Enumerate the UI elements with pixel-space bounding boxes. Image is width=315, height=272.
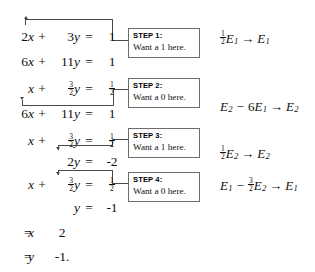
equation-row-2: 6x + 11y = 1: [14, 53, 126, 71]
row6-equals: =: [80, 154, 98, 170]
op2-target-E: E: [286, 100, 294, 113]
op4-lead-E: E: [220, 179, 228, 192]
operation-note-4: E1 − 32E2 → E1: [220, 177, 298, 193]
row4-coefficient-y: 11: [61, 106, 74, 121]
row4-coefficient-x: 6: [21, 106, 28, 121]
op1-source-E: E: [226, 32, 234, 45]
step-box-3[interactable]: STEP 3: Want a 1 here.: [128, 128, 200, 158]
row2-coefficient-y: 11: [61, 54, 74, 69]
row2-equals: =: [80, 54, 98, 70]
step-1-label: STEP 1:: [133, 31, 196, 41]
row5-operator: +: [34, 133, 50, 149]
op4-source-E: E: [254, 179, 262, 192]
row5-rhs-fraction-one-half: 12: [109, 133, 115, 149]
row9-rhs: 2: [48, 225, 76, 241]
op1-arrow-icon: →: [241, 32, 254, 45]
equation-row-8: y = -1: [14, 199, 126, 217]
op3-source-subscript: 2: [234, 152, 238, 161]
step-3-instruction: Want a 1 here.: [133, 141, 196, 154]
row8-equals: =: [80, 200, 98, 216]
row1-operator: +: [34, 29, 50, 45]
equation-row-5: x + 32y = 12: [14, 132, 126, 150]
row7-fraction-three-halves: 32: [68, 177, 74, 193]
op1-target-E: E: [257, 32, 265, 45]
op2-target-subscript: 2: [294, 105, 298, 114]
step-4-instruction: Want a 0 here.: [133, 185, 196, 198]
row5-fraction-three-halves: 32: [68, 133, 74, 149]
step-2-instruction: Want a 0 here.: [133, 91, 196, 104]
op4-minus: −: [237, 179, 244, 192]
op3-source-E: E: [226, 147, 234, 160]
row6-rhs: -2: [98, 154, 126, 170]
op4-target-E: E: [285, 179, 293, 192]
op3-target-subscript: 2: [266, 152, 270, 161]
row1-coefficient-x: 2: [21, 29, 28, 44]
operation-note-3: 12 E2 → E2: [220, 145, 270, 161]
op2-lead-E: E: [220, 100, 228, 113]
row2-coefficient-x: 6: [21, 54, 28, 69]
step-box-1[interactable]: STEP 1: Want a 1 here.: [128, 28, 200, 58]
op1-source-subscript: 1: [234, 37, 238, 46]
figure-canvas: 2x + 3y = 1 6x + 11y = 1 x + 32y = 12 6x…: [0, 0, 315, 272]
op2-arrow-icon: →: [270, 100, 283, 113]
row3-fraction-three-halves: 32: [68, 81, 74, 97]
op3-scalar-one-half: 12: [220, 145, 226, 161]
row4-equals: =: [80, 106, 98, 122]
solution-row-y: y = -1.: [14, 248, 76, 266]
row3-operator: +: [34, 81, 50, 97]
row10-rhs: -1.: [48, 249, 76, 265]
row7-rhs-fraction-one-half: 12: [109, 177, 115, 193]
op4-target-subscript: 1: [293, 184, 297, 193]
op4-source-subscript: 2: [262, 184, 266, 193]
row3-rhs-fraction-one-half: 12: [109, 81, 115, 97]
equation-row-4: 6x + 11y = 1: [14, 105, 126, 123]
step-box-2[interactable]: STEP 2: Want a 0 here.: [128, 78, 200, 108]
leader-line-step1-top: [25, 19, 113, 20]
row2-operator: +: [34, 54, 50, 70]
op3-arrow-icon: →: [241, 147, 254, 160]
row8-rhs: -1: [98, 200, 126, 216]
solution-row-x: x = 2: [14, 224, 76, 242]
step-2-label: STEP 2:: [133, 81, 196, 91]
operation-note-2: E2 − 6E1 → E2: [220, 100, 298, 113]
row5-equals: =: [80, 133, 98, 149]
row3-equals: =: [80, 81, 98, 97]
op2-source-subscript: 1: [263, 105, 267, 114]
row7-operator: +: [34, 177, 50, 193]
step-box-4[interactable]: STEP 4: Want a 0 here.: [128, 172, 200, 202]
op1-target-subscript: 1: [266, 37, 270, 46]
row1-rhs: 1: [98, 29, 126, 45]
step-4-label: STEP 4:: [133, 175, 196, 185]
equation-row-7: x + 32y = 12: [14, 176, 126, 194]
op4-lead-subscript: 1: [228, 184, 232, 193]
row7-equals: =: [80, 177, 98, 193]
row4-rhs: 1: [98, 106, 126, 122]
op4-scalar-three-halves: 32: [248, 177, 254, 193]
equation-row-1: 2x + 3y = 1: [14, 28, 126, 46]
op4-arrow-icon: →: [269, 179, 282, 192]
leader-arrow-step4: [56, 172, 60, 175]
op2-lead-subscript: 2: [228, 105, 232, 114]
row4-operator: +: [34, 106, 50, 122]
row1-coefficient-y: 3: [67, 29, 74, 44]
op2-minus: −: [237, 100, 244, 113]
op2-source-E: E: [254, 100, 262, 113]
step-1-instruction: Want a 1 here.: [133, 41, 196, 54]
op3-target-E: E: [257, 147, 265, 160]
row1-equals: =: [80, 29, 98, 45]
row2-rhs: 1: [98, 54, 126, 70]
equation-row-6: 2y = -2: [14, 153, 126, 171]
step-3-label: STEP 3:: [133, 131, 196, 141]
equation-row-3: x + 32y = 12: [14, 80, 126, 98]
operation-note-1: 12 E1 → E1: [220, 30, 270, 46]
row6-coefficient-y: 2: [67, 154, 74, 169]
op1-scalar-one-half: 12: [220, 30, 226, 46]
